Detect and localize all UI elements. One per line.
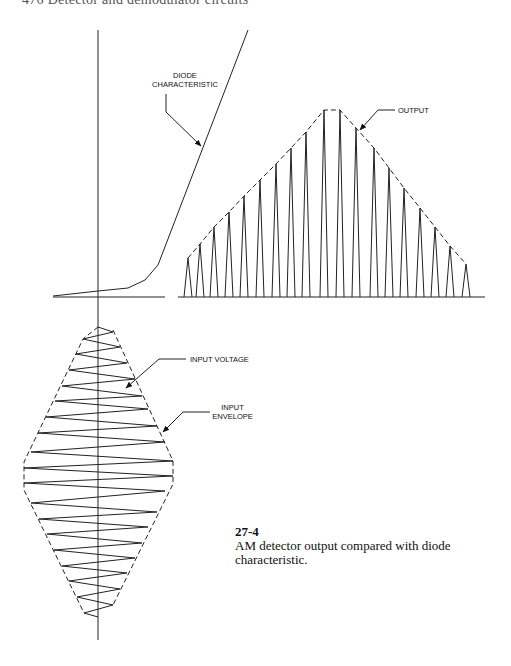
output-pulse — [225, 212, 233, 297]
input-envelope-leader — [163, 412, 210, 432]
output-label-leader — [360, 110, 395, 130]
figure-number: 27-4 — [235, 525, 475, 539]
output-pulse — [352, 128, 360, 297]
output-pulse — [210, 227, 218, 297]
output-pulse — [462, 264, 470, 297]
output-pulse — [336, 110, 344, 297]
figure-caption: 27-4 AM detector output compared with di… — [235, 525, 475, 567]
input-envelope-line2: ENVELOPE — [210, 412, 255, 421]
diode-characteristic-label: DIODE CHARACTERISTIC — [140, 71, 230, 89]
output-pulse — [446, 246, 454, 297]
input-envelope-label: INPUT ENVELOPE — [210, 403, 255, 421]
output-pulse — [416, 208, 424, 297]
input-envelope-line1: INPUT — [210, 403, 255, 412]
output-pulse — [287, 148, 295, 297]
output-pulse — [240, 196, 248, 297]
output-label: OUTPUT — [398, 106, 438, 115]
input-voltage-leader — [126, 359, 186, 388]
output-pulse — [196, 244, 204, 297]
output-pulse — [272, 164, 280, 297]
output-pulse — [400, 188, 408, 297]
output-pulse — [370, 148, 378, 297]
output-pulse — [320, 110, 328, 297]
diode-characteristic-curve — [53, 30, 248, 296]
figure-caption-text: AM detector output compared with diode c… — [235, 538, 451, 567]
output-pulse — [184, 258, 192, 297]
output-pulse — [302, 132, 310, 297]
output-pulses — [184, 110, 470, 297]
diode-label-line1: DIODE — [140, 71, 230, 80]
input-envelope-right — [113, 330, 173, 605]
output-pulse — [256, 180, 264, 297]
output-pulse — [385, 168, 393, 297]
output-pulse — [431, 227, 439, 297]
input-voltage-label: INPUT VOLTAGE — [190, 355, 270, 364]
diode-label-line2: CHARACTERISTIC — [140, 80, 230, 89]
diode-label-leader — [166, 94, 201, 146]
